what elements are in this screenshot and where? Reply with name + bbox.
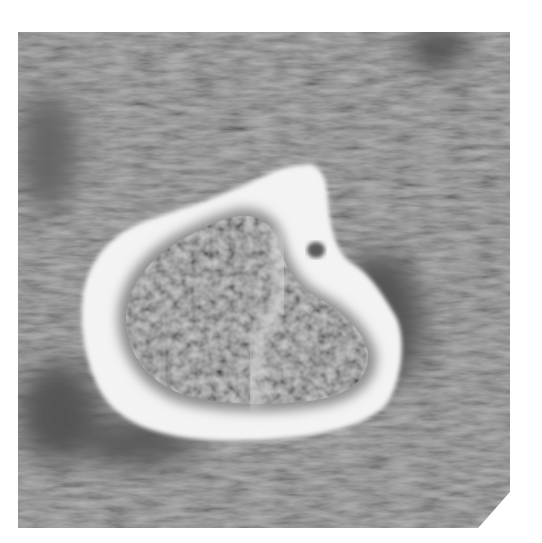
ct-scan-svg	[18, 32, 510, 528]
foramen	[307, 242, 325, 258]
ct-scan-image	[18, 32, 510, 528]
